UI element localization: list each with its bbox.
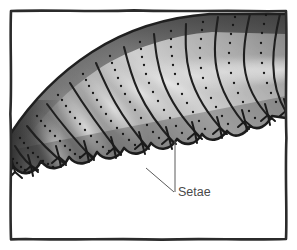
illustration-canvas: Setae bbox=[0, 0, 297, 250]
illustration-figure: Setae bbox=[0, 0, 297, 250]
setae-label: Setae bbox=[178, 185, 211, 199]
